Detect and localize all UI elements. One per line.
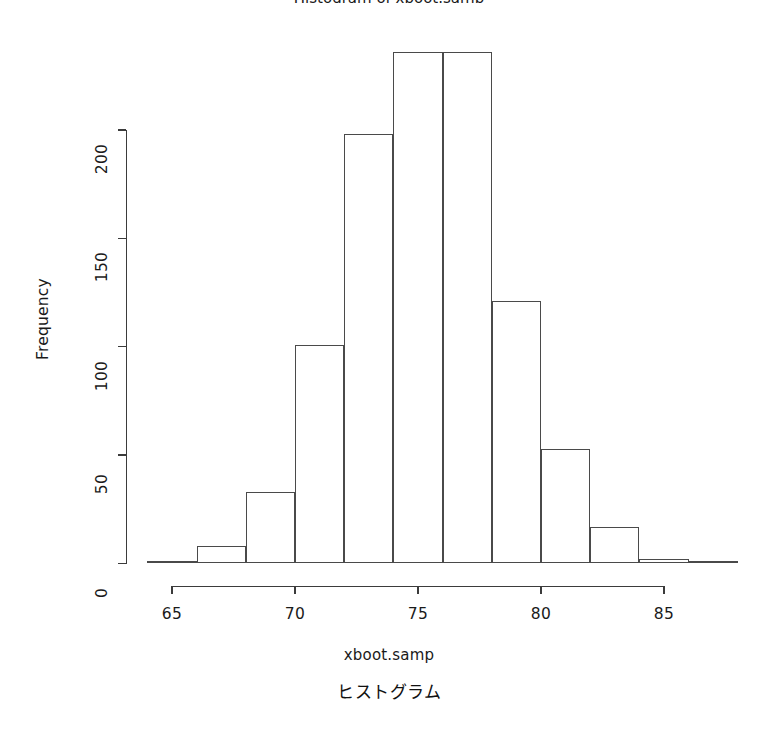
y-tick-mark xyxy=(118,129,126,130)
y-axis-line xyxy=(126,130,127,564)
histogram-bar xyxy=(443,52,492,564)
x-axis-label: xboot.samp xyxy=(0,646,778,664)
x-tick-label: 85 xyxy=(634,605,694,623)
histogram-bar xyxy=(344,134,393,563)
histogram-bar xyxy=(689,561,738,562)
y-axis-label: Frequency xyxy=(34,259,52,379)
x-tick-mark xyxy=(663,586,664,594)
histogram-bar xyxy=(393,52,442,564)
histogram-bar xyxy=(147,561,196,562)
plot-caption: ヒストグラム xyxy=(0,678,778,703)
histogram-bar xyxy=(197,546,246,563)
y-tick-label: 200 xyxy=(93,129,111,189)
y-tick-label: 100 xyxy=(93,346,111,406)
x-tick-label: 75 xyxy=(388,605,448,623)
y-tick-label: 50 xyxy=(93,454,111,514)
y-tick-mark xyxy=(118,454,126,455)
x-tick-mark xyxy=(417,586,418,594)
y-tick-mark xyxy=(118,346,126,347)
histogram-plot: Histogram of xboot.samp 050100150200 Fre… xyxy=(0,0,778,732)
histogram-bar xyxy=(295,345,344,564)
x-tick-label: 65 xyxy=(142,605,202,623)
y-tick-label: 0 xyxy=(93,563,111,623)
x-tick-label: 80 xyxy=(511,605,571,623)
histogram-bar xyxy=(541,449,590,564)
histogram-bar xyxy=(639,559,688,563)
plot-title: Histogram of xboot.samp xyxy=(0,0,778,3)
x-tick-mark xyxy=(540,586,541,594)
histogram-bar xyxy=(246,492,295,564)
x-tick-label: 70 xyxy=(265,605,325,623)
histogram-bar xyxy=(590,527,639,564)
histogram-bar xyxy=(492,301,541,563)
x-tick-mark xyxy=(294,586,295,594)
histogram-baseline xyxy=(147,562,737,563)
y-tick-label: 150 xyxy=(93,237,111,297)
x-tick-mark xyxy=(171,586,172,594)
y-tick-mark xyxy=(118,238,126,239)
y-tick-mark xyxy=(118,563,126,564)
